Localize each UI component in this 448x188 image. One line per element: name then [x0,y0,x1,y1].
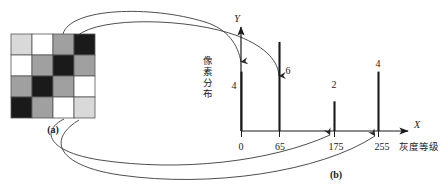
y-axis-label: 像素分布 [202,55,213,100]
grid-cell [74,76,95,97]
x-tick-marks [242,131,379,137]
x-axis-name: X [413,119,421,130]
grid-cell [32,55,53,76]
y-axis-name: Y [234,13,241,24]
grid-cell [11,34,32,55]
grid-cell [74,55,95,76]
x-tick-label: 0 [239,141,244,152]
bar-value-label: 4 [232,80,237,91]
x-axis-unit-label: 灰度等级 [399,141,439,152]
grid-cell [74,97,95,118]
connector-white-to-65 [77,22,279,76]
connector-midgray-to-175 [51,119,330,165]
histogram-figure: (a) Y X 像素分布 4 6 2 4 [0,0,448,188]
grid-cell [32,76,53,97]
grid-cell [53,55,74,76]
x-tick-label: 255 [375,141,390,152]
grid-cell [53,34,74,55]
grid-cell [11,76,32,97]
grid-cell [11,55,32,76]
grid-cell [11,97,32,118]
grid-cell [32,97,53,118]
bar-value-label: 2 [332,79,337,90]
grid-cell [53,97,74,118]
panel-a-caption: (a) [47,124,59,136]
grid-cell [53,76,74,97]
chart-axes [241,27,408,131]
pixel-grid [11,34,95,118]
grid-cell [32,34,53,55]
bar-value-label: 6 [286,65,291,76]
x-tick-label: 175 [329,141,344,152]
x-tick-label: 65 [275,141,285,152]
chart-bars [242,42,379,131]
bar-value-label: 4 [376,58,381,69]
panel-b-caption: (b) [330,169,342,181]
figure-container: (a) Y X 像素分布 4 6 2 4 [0,0,448,188]
grid-cell [74,34,95,55]
